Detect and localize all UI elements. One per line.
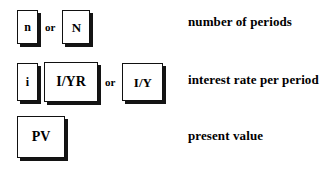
key-group-number-of-periods: n or N	[17, 10, 90, 44]
calculator-key-iy[interactable]: I/Y	[122, 63, 163, 101]
conjunction-or-row2: or	[98, 76, 122, 88]
description-present-value: present value	[188, 128, 263, 144]
calculator-key-N[interactable]: N	[62, 10, 90, 44]
key-group-interest-rate: i I/YR or I/Y	[17, 62, 163, 102]
description-number-of-periods: number of periods	[188, 14, 292, 30]
key-group-present-value: PV	[17, 116, 65, 158]
calculator-key-iyr[interactable]: I/YR	[44, 62, 98, 102]
calculator-key-notation-diagram: n or N number of periods i I/YR or I/Y i…	[0, 0, 333, 172]
calculator-key-i[interactable]: i	[17, 63, 38, 101]
conjunction-or-row1: or	[38, 21, 62, 33]
description-interest-rate: interest rate per period	[188, 72, 319, 88]
calculator-key-n[interactable]: n	[17, 10, 38, 44]
calculator-key-pv[interactable]: PV	[17, 116, 65, 158]
notation-row-present-value: PV	[0, 112, 333, 162]
